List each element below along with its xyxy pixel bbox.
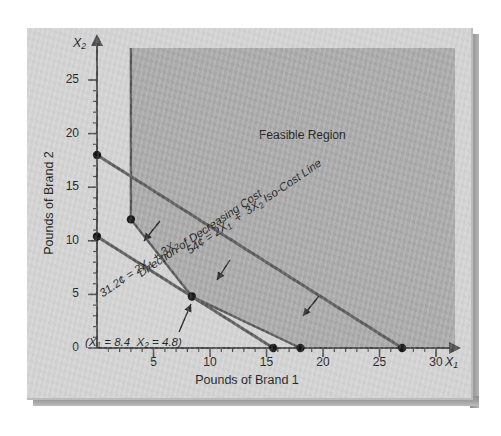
y-tick-label-5: 5 [53,286,79,300]
marker-0-18 [93,151,101,159]
y-tick-label-20: 20 [53,126,79,140]
y-axis-variable-name: X2 [73,36,86,51]
y-tick-label-10: 10 [53,233,79,247]
marker-15.6-0 [269,344,277,352]
plot-area: 5 10 15 20 25 30 25 20 15 10 5 0 X2 X1 P… [27,28,471,398]
y-axis-ticks [88,80,97,348]
y-axis-title: Pounds of Brand 2 [42,123,56,283]
y-tick-label-25: 25 [53,72,79,86]
x-tick-label-20: 20 [308,355,338,369]
y-tick-label-0: 0 [53,340,79,354]
optimal-point-label: (X1 = 8.4 X2 = 4.8) [85,336,182,350]
feasible-region-shape [131,48,455,348]
x-tick-label-10: 10 [195,355,225,369]
x-tick-label-15: 15 [252,355,282,369]
x-tick-label-5: 5 [139,355,169,369]
marker-18-0 [296,344,304,352]
marker-0-10.4 [93,232,101,240]
x-axis-variable-name: X1 [445,355,458,370]
y-tick-label-15: 15 [53,179,79,193]
marker-8.4-4.8 [188,292,196,300]
x-axis-title: Pounds of Brand 1 [137,373,357,387]
marker-3-12 [127,215,135,223]
figure-plate: 5 10 15 20 25 30 25 20 15 10 5 0 X2 X1 P… [27,28,477,402]
feasible-region-label: Feasible Region [259,128,346,142]
x-tick-label-25: 25 [365,355,395,369]
marker-27-0 [398,344,406,352]
optimal-point-pointer [179,304,191,332]
